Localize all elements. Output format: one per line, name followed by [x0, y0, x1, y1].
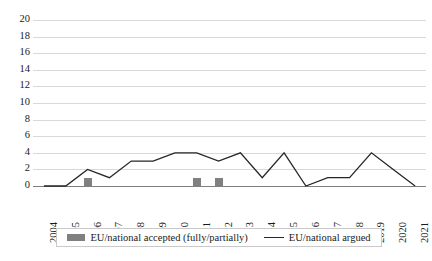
y-tick-label-12: 12 [4, 80, 30, 91]
x-axis: 2004200520062007200820092010201120122013… [33, 188, 426, 224]
y-axis: 02468101214161820 [0, 20, 30, 186]
legend-item-accepted: EU/national accepted (fully/partially) [67, 232, 247, 243]
plot-area [33, 20, 426, 186]
bar-swatch-icon [67, 234, 85, 241]
legend-label-argued: EU/national argued [289, 232, 371, 243]
y-tick-label-2: 2 [4, 163, 30, 174]
chart-container: 02468101214161820 2004200520062007200820… [0, 0, 432, 261]
line-path-svg [33, 20, 426, 186]
x-tick-label-2020: 2020 [397, 222, 408, 243]
y-tick-label-4: 4 [4, 147, 30, 158]
chart-legend: EU/national accepted (fully/partially) E… [56, 228, 382, 247]
y-tick-label-16: 16 [4, 47, 30, 58]
x-tick-label-2021: 2021 [419, 222, 430, 243]
line-series-eu-national-argued [33, 20, 426, 186]
y-tick-label-0: 0 [4, 180, 30, 191]
y-tick-label-18: 18 [4, 31, 30, 42]
legend-label-accepted: EU/national accepted (fully/partially) [90, 232, 247, 243]
y-tick-label-10: 10 [4, 97, 30, 108]
y-tick-label-20: 20 [4, 14, 30, 25]
y-tick-label-8: 8 [4, 114, 30, 125]
line-swatch-icon [264, 237, 284, 238]
gridline-0 [33, 186, 426, 187]
y-tick-label-14: 14 [4, 64, 30, 75]
line-polyline [44, 153, 415, 186]
legend-item-argued: EU/national argued [264, 232, 371, 243]
y-tick-label-6: 6 [4, 130, 30, 141]
